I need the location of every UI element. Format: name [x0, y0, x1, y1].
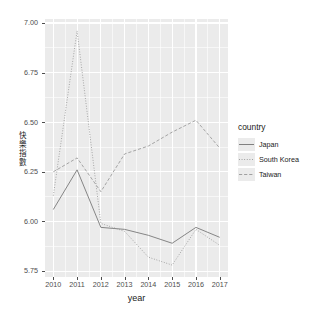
y-tick-label: 6.25: [4, 168, 38, 175]
legend-label-taiwan: Taiwan: [259, 170, 281, 179]
x-axis-title: year: [45, 293, 228, 303]
y-tick-mark: [42, 73, 45, 74]
line-chart: 5.756.006.256.506.757.00 201020112012201…: [0, 0, 310, 320]
legend-key-south-korea-icon: [238, 153, 255, 166]
legend-item-south-korea[interactable]: South Korea: [238, 152, 308, 167]
x-tick-mark: [77, 277, 78, 280]
x-tick-mark: [148, 277, 149, 280]
x-tick-mark: [196, 277, 197, 280]
y-tick-label: 5.75: [4, 267, 38, 274]
x-tick-mark: [220, 277, 221, 280]
x-tick-mark: [172, 277, 173, 280]
legend-key-japan-icon: [238, 138, 255, 151]
legend: country JapanSouth KoreaTaiwan: [238, 122, 308, 182]
series-line-japan: [53, 170, 219, 243]
plot-panel: [45, 19, 228, 277]
series-layer: [45, 19, 228, 277]
legend-label-south-korea: South Korea: [259, 155, 299, 164]
y-tick-label: 6.75: [4, 69, 38, 76]
series-line-taiwan: [53, 120, 219, 191]
y-tick-label: 7.00: [4, 19, 38, 26]
x-tick-mark: [125, 277, 126, 280]
legend-key-taiwan-icon: [238, 168, 255, 181]
x-tick-mark: [53, 277, 54, 280]
y-tick-label: 6.00: [4, 218, 38, 225]
y-tick-label: 6.50: [4, 119, 38, 126]
series-line-south-korea: [53, 31, 219, 265]
y-tick-mark: [42, 172, 45, 173]
legend-item-taiwan[interactable]: Taiwan: [238, 167, 308, 182]
y-tick-mark: [42, 271, 45, 272]
y-axis-title: 快樂指數: [17, 131, 27, 167]
legend-item-japan[interactable]: Japan: [238, 137, 308, 152]
legend-label-japan: Japan: [259, 140, 279, 149]
x-tick-label: 2017: [203, 281, 237, 288]
y-tick-mark: [42, 221, 45, 222]
y-tick-mark: [42, 23, 45, 24]
legend-items: JapanSouth KoreaTaiwan: [238, 137, 308, 182]
legend-title: country: [238, 122, 308, 132]
y-tick-mark: [42, 122, 45, 123]
x-tick-mark: [101, 277, 102, 280]
